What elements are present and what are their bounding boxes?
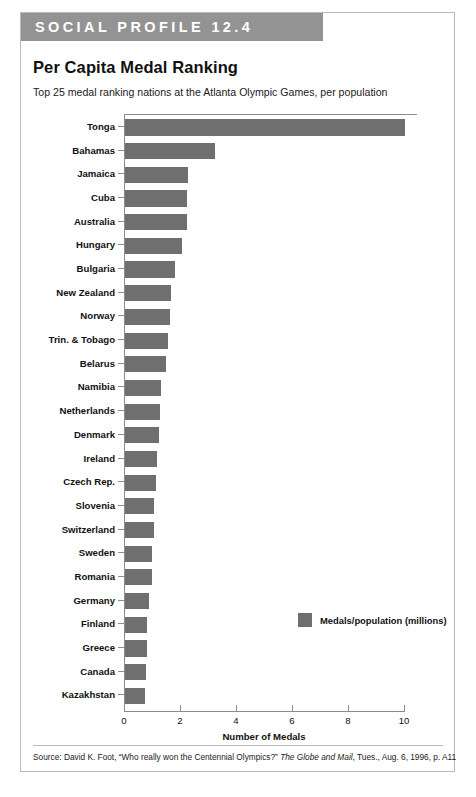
bar-row: Canada xyxy=(125,662,417,686)
bar-row: Namibia xyxy=(125,377,417,401)
bar-category-label: New Zealand xyxy=(56,284,115,301)
x-axis-tick-label: 4 xyxy=(233,715,238,726)
bar-category-label: Cuba xyxy=(91,189,115,206)
bar-row: Denmark xyxy=(125,425,417,449)
y-axis-tick xyxy=(118,623,124,624)
bar-category-label: Kazakhstan xyxy=(62,686,115,703)
x-axis-tick xyxy=(236,705,237,712)
figure-title: Per Capita Medal Ranking xyxy=(33,58,238,77)
bar-row: New Zealand xyxy=(125,283,417,307)
bar xyxy=(125,498,154,514)
bar xyxy=(125,664,146,680)
bar-category-label: Jamaica xyxy=(77,165,115,182)
x-axis-tick xyxy=(348,705,349,712)
bar xyxy=(125,475,156,491)
bar xyxy=(125,522,154,538)
bar-category-label: Ireland xyxy=(84,450,115,467)
bar-category-label: Slovenia xyxy=(76,497,115,514)
y-axis-tick xyxy=(118,458,124,459)
x-axis-title: Number of Medals xyxy=(222,731,305,742)
x-axis-tick-label: 0 xyxy=(121,715,126,726)
bar xyxy=(125,427,159,443)
bar-category-label: Netherlands xyxy=(60,402,115,419)
x-axis-tick xyxy=(404,705,405,712)
bar-row: Tonga xyxy=(125,117,417,141)
bar xyxy=(125,285,171,301)
bar-row: Cuba xyxy=(125,188,417,212)
figure-banner: SOCIAL PROFILE 12.4 xyxy=(21,13,323,41)
x-axis-tick-label: 8 xyxy=(345,715,350,726)
bar xyxy=(125,214,187,230)
source-prefix: Source: David K. Foot, “Who really won t… xyxy=(33,752,280,762)
bar-category-label: Norway xyxy=(80,307,115,324)
y-axis-tick xyxy=(118,481,124,482)
x-axis-tick-label: 2 xyxy=(177,715,182,726)
y-axis-tick xyxy=(118,552,124,553)
bar-row: Bulgaria xyxy=(125,259,417,283)
bar xyxy=(125,167,188,183)
y-axis-tick xyxy=(118,576,124,577)
bar xyxy=(125,569,152,585)
source-note: Source: David K. Foot, “Who really won t… xyxy=(33,752,456,762)
bar-category-label: Germany xyxy=(73,592,115,609)
bar xyxy=(125,640,147,656)
bar-category-label: Bahamas xyxy=(72,142,115,159)
bar xyxy=(125,404,160,420)
bar-category-label: Namibia xyxy=(78,378,115,395)
bar-category-label: Switzerland xyxy=(62,521,115,538)
bar xyxy=(125,546,152,562)
figure-subtitle: Top 25 medal ranking nations at the Atla… xyxy=(33,86,388,98)
y-axis-tick xyxy=(118,386,124,387)
legend-label: Medals/population (millions) xyxy=(320,615,447,626)
y-axis-tick xyxy=(118,173,124,174)
bar xyxy=(125,261,175,277)
bar xyxy=(125,617,147,633)
bar-category-label: Czech Rep. xyxy=(63,473,115,490)
bar xyxy=(125,333,168,349)
y-axis-tick xyxy=(118,671,124,672)
y-axis-tick xyxy=(118,126,124,127)
y-axis-tick xyxy=(118,529,124,530)
y-axis-tick xyxy=(118,244,124,245)
bar-row: Trin. & Tobago xyxy=(125,330,417,354)
bar-category-label: Belarus xyxy=(80,355,115,372)
bar-row: Netherlands xyxy=(125,401,417,425)
bar-category-label: Romania xyxy=(74,568,115,585)
bar-row: Germany xyxy=(125,591,417,615)
bar xyxy=(125,238,182,254)
bar-row: Sweden xyxy=(125,543,417,567)
bar xyxy=(125,119,405,135)
y-axis-tick xyxy=(118,410,124,411)
x-axis-tick-label: 6 xyxy=(289,715,294,726)
source-divider xyxy=(33,745,443,746)
x-axis-tick xyxy=(180,705,181,712)
chart-legend: Medals/population (millions) xyxy=(298,613,447,627)
y-axis-tick xyxy=(118,197,124,198)
y-axis-tick xyxy=(118,647,124,648)
social-profile-figure: SOCIAL PROFILE 12.4 Per Capita Medal Ran… xyxy=(0,0,476,797)
bar-row: Belarus xyxy=(125,354,417,378)
bar xyxy=(125,190,187,206)
y-axis-tick xyxy=(118,150,124,151)
bar-row: Hungary xyxy=(125,235,417,259)
bar-row: Czech Rep. xyxy=(125,472,417,496)
source-publication: The Globe and Mail xyxy=(280,752,352,762)
bar xyxy=(125,143,215,159)
bar-row: Bahamas xyxy=(125,141,417,165)
bar-category-label: Denmark xyxy=(74,426,115,443)
y-axis-tick xyxy=(118,221,124,222)
bar-row: Australia xyxy=(125,212,417,236)
bar-category-label: Bulgaria xyxy=(77,260,115,277)
y-axis-tick xyxy=(118,268,124,269)
bar-row: Norway xyxy=(125,306,417,330)
bar-row: Greece xyxy=(125,638,417,662)
y-axis-tick xyxy=(118,434,124,435)
source-suffix: , Tues., Aug. 6, 1996, p. A11 xyxy=(353,752,457,762)
x-axis-tick-label: 10 xyxy=(399,715,410,726)
y-axis-tick xyxy=(118,600,124,601)
bar xyxy=(125,380,161,396)
bar-category-label: Sweden xyxy=(79,544,115,561)
bar-category-label: Finland xyxy=(81,615,115,632)
bar-row: Ireland xyxy=(125,449,417,473)
legend-swatch-icon xyxy=(298,613,312,627)
